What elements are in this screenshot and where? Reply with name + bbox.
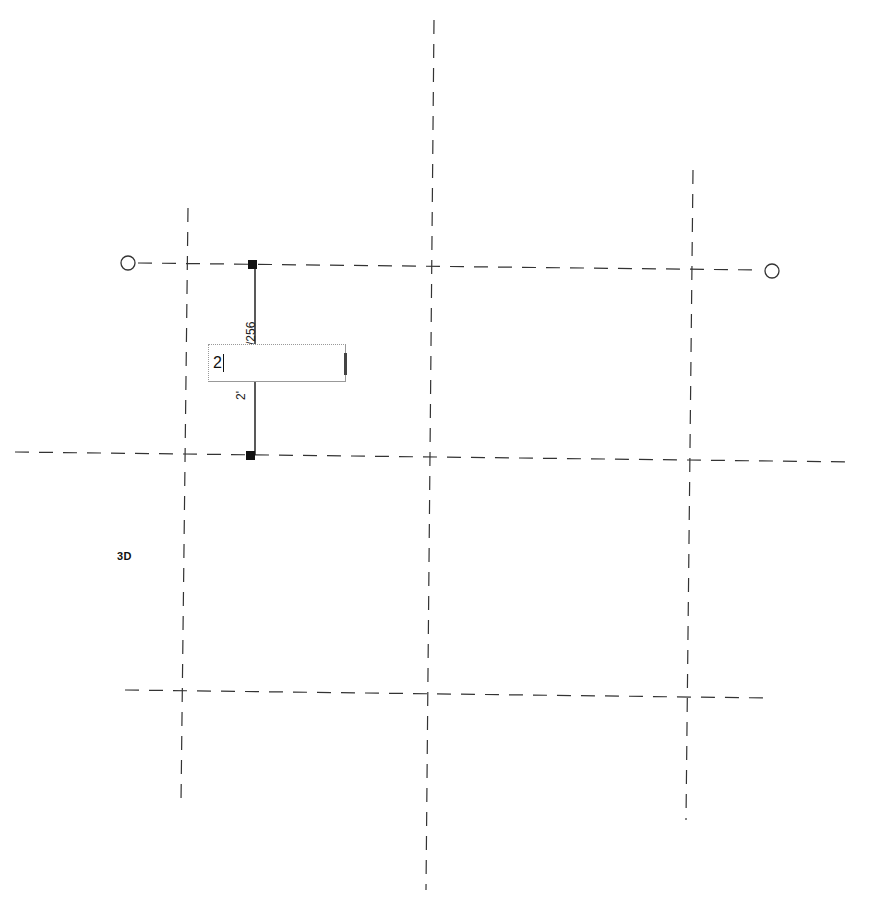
grid-line-vertical-2[interactable] [426, 20, 434, 890]
drawing-canvas[interactable]: /256 2' 2 3D [0, 0, 870, 906]
dimension-handle-top-icon[interactable] [248, 260, 257, 269]
grid-line-vertical-3[interactable] [686, 170, 693, 820]
grid-bubble-start-icon[interactable] [121, 256, 135, 270]
grid-line-horizontal-2[interactable] [15, 452, 855, 462]
dimension-input-value: 2 [213, 354, 222, 372]
grid-line-horizontal-3[interactable] [125, 690, 768, 698]
grid-line-horizontal-1[interactable] [138, 263, 760, 270]
grid-line-vertical-1[interactable] [181, 208, 188, 802]
grid-bubble-end-icon[interactable] [765, 264, 779, 278]
dimension-text-bottom: 2' [234, 391, 248, 400]
view-label-3d: 3D [117, 550, 132, 562]
input-grip-icon [344, 353, 347, 375]
dimension-text-top: /256 [244, 322, 258, 345]
text-caret [223, 354, 224, 372]
dimension-handle-bottom-icon[interactable] [246, 451, 255, 460]
grid-layer [0, 0, 870, 906]
dimension-value-input[interactable]: 2 [208, 344, 346, 382]
